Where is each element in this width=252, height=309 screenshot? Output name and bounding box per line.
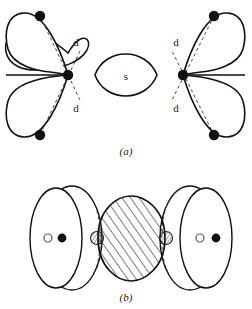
orbital-label-d-lr: d (173, 102, 179, 114)
ellipse-left-front (30, 188, 82, 288)
orbital-label-d-ur: d (173, 36, 179, 48)
filled-dot-right (212, 234, 221, 243)
open-circle-left (44, 234, 52, 242)
central-node-right (178, 70, 188, 80)
panel-a-caption: (a) (0, 145, 252, 157)
hatched-overlap-region (98, 196, 165, 281)
panel-b-caption: (b) (0, 291, 252, 303)
panel-b (30, 186, 232, 290)
filled-dot-ll (35, 130, 45, 140)
orbital-label-d-ul: d (73, 36, 79, 48)
open-circle-right (196, 234, 204, 242)
filled-dot-ul (35, 11, 45, 21)
orbital-label-s: s (124, 70, 128, 82)
stippled-circle-left (91, 232, 104, 245)
d-lobe-ur (183, 13, 245, 75)
d-lobe-ll (6, 75, 68, 137)
d-lobe-lr (183, 75, 245, 137)
filled-dot-ur (209, 11, 219, 21)
stippled-circle-right (160, 232, 173, 245)
ellipse-right-front (180, 188, 232, 288)
filled-dot-left (58, 234, 67, 243)
filled-dot-lr (209, 130, 219, 140)
orbital-label-d-ll: d (73, 102, 79, 114)
central-node-left (63, 70, 73, 80)
